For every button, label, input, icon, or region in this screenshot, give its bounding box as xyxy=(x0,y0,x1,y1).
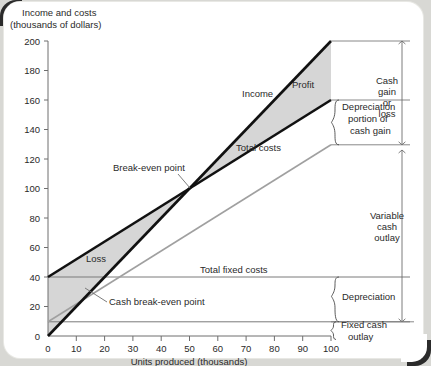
y-axis-title-line2: (thousands of dollars) xyxy=(10,19,101,30)
depreciation-portion-label-2: portion of xyxy=(348,113,388,124)
x-tick-label-80: 80 xyxy=(269,343,280,354)
variable-cash-outlay-label-3: outlay xyxy=(374,232,400,243)
y-tick-label-40: 40 xyxy=(29,272,40,283)
profit-label: Profit xyxy=(292,79,315,90)
figure-frame: 200 180 160 140 120 100 80 60 40 20 0 0 … xyxy=(0,0,431,366)
total-costs-line xyxy=(48,100,331,277)
y-tick-label-200: 200 xyxy=(24,36,40,47)
y-tick-label-60: 60 xyxy=(29,242,40,253)
break-even-point-leader xyxy=(178,174,190,188)
fixed-cash-outlay-bracket xyxy=(331,322,336,340)
cash-gain-or-loss-label-2: gain xyxy=(378,86,396,97)
fixed-cash-outlay-label-1: Fixed cash xyxy=(341,319,387,330)
variable-cash-outlay-label-2: cash xyxy=(377,221,397,232)
y-tick-label-100: 100 xyxy=(24,183,40,194)
total-fixed-costs-label: Total fixed costs xyxy=(200,264,268,275)
x-tick-label-50: 50 xyxy=(184,343,195,354)
total-costs-label: Total costs xyxy=(236,142,281,153)
x-tick-label-30: 30 xyxy=(128,343,139,354)
x-tick-label-90: 90 xyxy=(297,343,308,354)
x-tick-label-60: 60 xyxy=(213,343,224,354)
depreciation-bracket xyxy=(332,277,340,322)
depreciation-portion-bracket xyxy=(332,100,340,145)
fixed-cash-outlay-label-2: outlay xyxy=(348,331,374,342)
y-tick-label-20: 20 xyxy=(29,301,40,312)
depreciation-portion-label-1: Depreciation xyxy=(342,101,395,112)
y-tick-label-80: 80 xyxy=(29,213,40,224)
x-axis-ticks xyxy=(76,336,331,341)
y-tick-label-140: 140 xyxy=(24,124,40,135)
x-tick-label-100: 100 xyxy=(323,343,339,354)
y-tick-label-180: 180 xyxy=(24,65,40,76)
variable-cash-outlay-label-1: Variable xyxy=(370,210,404,221)
cash-gain-or-loss-bracket xyxy=(399,41,406,145)
break-even-chart: 200 180 160 140 120 100 80 60 40 20 0 0 … xyxy=(0,0,431,366)
depreciation-label: Depreciation xyxy=(342,291,395,302)
x-tick-label-10: 10 xyxy=(71,343,82,354)
y-axis-title-line1: Income and costs xyxy=(22,7,97,18)
y-axis-ticks xyxy=(44,41,48,307)
x-tick-label-70: 70 xyxy=(241,343,252,354)
chart-svg: 200 180 160 140 120 100 80 60 40 20 0 0 … xyxy=(0,0,431,366)
y-tick-label-160: 160 xyxy=(24,95,40,106)
x-tick-label-0: 0 xyxy=(45,343,50,354)
x-tick-label-20: 20 xyxy=(99,343,110,354)
x-axis-title: Units produced (thousands) xyxy=(131,356,248,366)
cash-gain-or-loss-label-1: Cash xyxy=(376,75,398,86)
loss-label: Loss xyxy=(86,253,106,264)
y-tick-label-0: 0 xyxy=(35,331,40,342)
y-tick-label-120: 120 xyxy=(24,154,40,165)
cash-break-even-point-label: Cash break-even point xyxy=(109,296,205,307)
income-label: Income xyxy=(242,88,273,99)
x-tick-label-40: 40 xyxy=(156,343,167,354)
break-even-point-label: Break-even point xyxy=(113,162,185,173)
depreciation-portion-label-3: cash gain xyxy=(350,125,391,136)
